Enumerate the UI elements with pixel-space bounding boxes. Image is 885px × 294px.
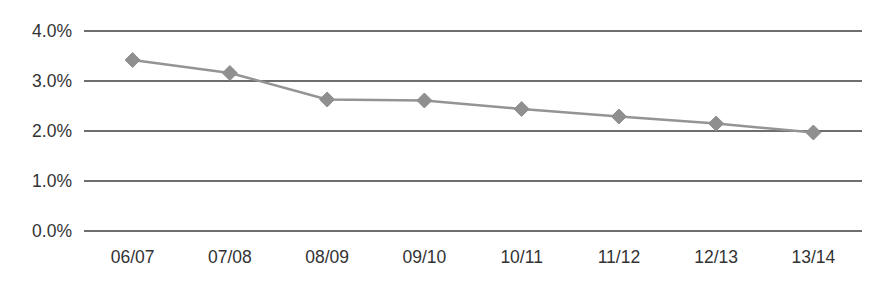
data-point-marker	[611, 109, 626, 124]
chart-canvas: 4.0%3.0%2.0%1.0%0.0% 06/0707/0808/0909/1…	[0, 0, 885, 294]
x-axis-tick-labels: 06/0707/0808/0909/1010/1111/1212/1313/14	[111, 247, 836, 267]
series-markers-group	[125, 53, 821, 141]
data-point-marker	[514, 102, 529, 117]
x-axis-tick-label: 12/13	[694, 247, 738, 267]
y-axis-tick-labels: 4.0%3.0%2.0%1.0%0.0%	[32, 21, 72, 241]
data-point-marker	[709, 116, 724, 131]
data-point-marker	[806, 125, 821, 140]
x-axis-tick-label: 13/14	[791, 247, 835, 267]
x-axis-tick-label: 06/07	[111, 247, 155, 267]
y-axis-tick-label: 4.0%	[32, 21, 72, 41]
y-axis-tick-label: 1.0%	[32, 171, 72, 191]
gridlines-group	[84, 31, 862, 231]
data-point-marker	[417, 93, 432, 108]
data-point-marker	[125, 53, 140, 68]
y-axis-tick-label: 2.0%	[32, 121, 72, 141]
y-axis-tick-label: 3.0%	[32, 71, 72, 91]
data-point-marker	[222, 66, 237, 81]
data-point-marker	[320, 92, 335, 107]
x-axis-tick-label: 09/10	[402, 247, 446, 267]
line-chart: 4.0%3.0%2.0%1.0%0.0% 06/0707/0808/0909/1…	[0, 0, 885, 294]
y-axis-tick-label: 0.0%	[32, 221, 72, 241]
x-axis-tick-label: 10/11	[500, 247, 543, 267]
x-axis-tick-label: 07/08	[208, 247, 252, 267]
x-axis-tick-label: 08/09	[305, 247, 349, 267]
x-axis-tick-label: 11/12	[598, 247, 641, 267]
